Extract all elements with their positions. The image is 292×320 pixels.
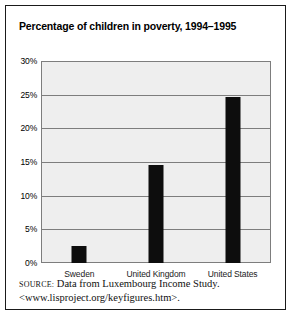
source-label: Source: — [19, 280, 54, 289]
y-axis-tick-label: 0% — [25, 258, 37, 268]
bar — [72, 246, 87, 263]
gridline — [41, 95, 271, 96]
y-axis-tick-label: 20% — [21, 123, 37, 133]
bar — [149, 165, 164, 263]
chart-title: Percentage of children in poverty, 1994–… — [19, 20, 274, 32]
y-axis-tick-label: 25% — [21, 90, 37, 100]
bar — [225, 97, 240, 263]
y-axis-tick-label: 5% — [25, 224, 37, 234]
source-note: Source: Data from Luxembourg Income Stud… — [19, 278, 277, 304]
figure-container: Percentage of children in poverty, 1994–… — [5, 5, 286, 310]
y-axis-tick-label: 15% — [21, 157, 37, 167]
plot-wrapper: 0%5%10%15%20%25%30% SwedenUnited Kingdom… — [41, 61, 271, 263]
y-axis-tick-label: 10% — [21, 191, 37, 201]
y-axis-tick-label: 30% — [21, 56, 37, 66]
